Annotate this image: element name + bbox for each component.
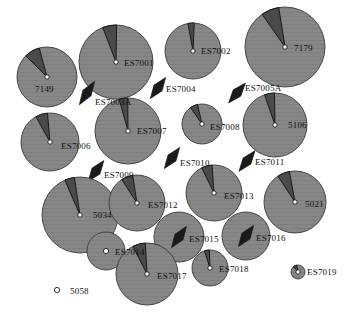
station-label-7149: 7149 (35, 85, 54, 94)
station-label-ES7016: ES7016 (256, 234, 286, 243)
station-point-ring (283, 45, 287, 49)
station-point-ring (191, 49, 195, 53)
station-point-ring (208, 266, 212, 270)
station-point-ring (78, 213, 82, 217)
station-label-ES7019: ES7019 (307, 268, 337, 277)
station-axis-arrow (239, 151, 255, 171)
station-axis-arrow (164, 147, 179, 168)
station-point-ring (293, 200, 297, 204)
station-label-5106: 5106 (288, 121, 307, 130)
station-label-ES7018: ES7018 (219, 265, 249, 274)
station-label-ES7001: ES7001 (124, 59, 154, 68)
station-point-ring (135, 201, 139, 205)
station-label-7179: 7179 (294, 44, 313, 53)
station-symbol-5058[interactable] (54, 287, 59, 292)
station-label-ES7011: ES7011 (255, 158, 284, 167)
station-label-5058: 5058 (70, 287, 89, 296)
station-label-ES7006: ES7006 (61, 142, 91, 151)
station-label-ES7002: ES7002 (201, 47, 231, 56)
station-point-ring (114, 60, 118, 64)
station-label-ES7014: ES7014 (115, 248, 145, 257)
station-label-ES7008: ES7008 (210, 123, 240, 132)
station-label-ES7015: ES7015 (189, 235, 219, 244)
station-point-ring (212, 191, 216, 195)
station-point-ring (45, 75, 49, 79)
station-point-ring (126, 129, 130, 133)
station-label-ES7010: ES7010 (180, 159, 210, 168)
station-label-ES7012: ES7012 (148, 201, 178, 210)
station-label-ES7005A: ES7005A (245, 84, 281, 93)
station-axis-arrow (150, 77, 165, 98)
station-symbol-ES7011[interactable] (239, 151, 255, 171)
symbol-map-figure: 7149ES7001ES70027179ES7003AES7004ES7005A… (0, 0, 350, 317)
station-point-ring (103, 248, 108, 253)
station-symbol-ES7005A[interactable] (229, 83, 246, 103)
station-label-ES7013: ES7013 (224, 192, 254, 201)
station-symbol-7179[interactable] (245, 7, 325, 87)
station-label-5021: 5021 (305, 200, 324, 209)
station-symbol-7149[interactable] (17, 47, 77, 107)
station-label-ES7004: ES7004 (166, 85, 196, 94)
station-point-ring (200, 122, 204, 126)
station-symbol-ES7019[interactable] (291, 265, 305, 279)
station-point-ring (54, 287, 59, 292)
station-symbol-ES7004[interactable] (150, 77, 165, 98)
station-point-ring (273, 123, 277, 127)
station-label-ES7007: ES7007 (137, 127, 167, 136)
station-label-ES7003A: ES7003A (95, 98, 131, 107)
station-point-ring (296, 270, 300, 274)
station-point-ring (145, 272, 149, 276)
station-symbol-ES7010[interactable] (164, 147, 179, 168)
station-label-ES7009: ES7009 (104, 171, 134, 180)
station-axis-arrow (229, 83, 246, 103)
station-label-5034: 5034 (93, 211, 112, 220)
station-label-ES7017: ES7017 (157, 272, 187, 281)
station-point-ring (48, 140, 52, 144)
